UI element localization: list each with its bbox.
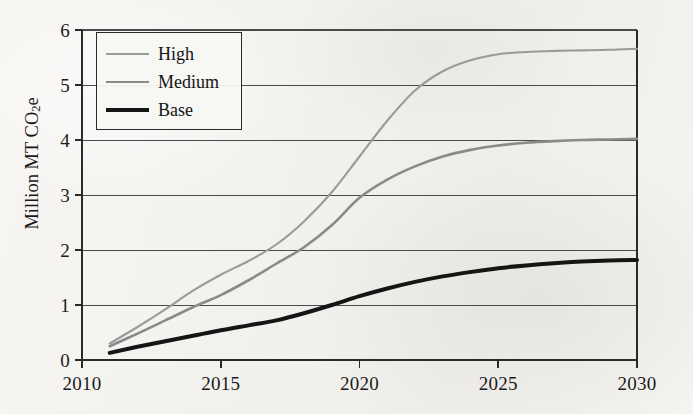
series-line-base	[110, 260, 637, 353]
x-tick-label-2010: 2010	[47, 374, 117, 393]
legend-label-high: High	[158, 45, 194, 63]
legend-swatch-medium-icon	[106, 81, 149, 83]
y-tick-label-1: 1	[44, 296, 70, 315]
x-tick-label-2020: 2020	[325, 374, 395, 393]
legend-swatch-high-icon	[106, 53, 149, 55]
x-tick-label-2025: 2025	[463, 374, 533, 393]
y-axis-title-main: Million MT CO	[22, 112, 42, 230]
line-chart-figure: 0123456 20102015202020252030 Million MT …	[0, 0, 693, 414]
y-axis-title: Million MT CO2e	[22, 68, 45, 258]
legend-swatch-base-icon	[106, 108, 149, 112]
chart-legend: HighMediumBase	[96, 32, 242, 130]
y-axis-title-subscript: 2	[29, 105, 43, 111]
chart-page: 0123456 20102015202020252030 Million MT …	[0, 0, 693, 414]
y-tick-label-2: 2	[44, 241, 70, 260]
y-tick-label-3: 3	[44, 186, 70, 205]
legend-label-medium: Medium	[158, 73, 219, 91]
legend-entry-base[interactable]: Base	[97, 96, 241, 124]
legend-entry-high[interactable]: High	[97, 40, 241, 68]
series-line-medium	[110, 139, 637, 346]
y-tick-label-4: 4	[44, 131, 70, 150]
y-tick-label-6: 6	[44, 21, 70, 40]
x-tick-label-2030: 2030	[602, 374, 672, 393]
legend-label-base: Base	[158, 101, 193, 119]
y-tick-label-0: 0	[44, 351, 70, 370]
x-tick-label-2015: 2015	[186, 374, 256, 393]
y-axis-title-suffix: e	[22, 97, 42, 105]
legend-entry-medium[interactable]: Medium	[97, 68, 241, 96]
y-tick-label-5: 5	[44, 76, 70, 95]
